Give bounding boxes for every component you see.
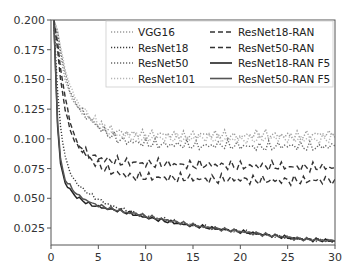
legend-label: VGG16 bbox=[138, 26, 175, 38]
y-tick-label: 0.025 bbox=[14, 222, 46, 235]
x-tick-label: 0 bbox=[48, 251, 55, 264]
y-tick-label: 0.125 bbox=[14, 103, 46, 116]
y-tick-label: 0.200 bbox=[14, 14, 46, 27]
y-tick-label: 0.175 bbox=[14, 44, 46, 57]
x-tick-label: 5 bbox=[95, 251, 102, 264]
legend-label: ResNet50-RAN F5 bbox=[238, 73, 330, 85]
legend: VGG16ResNet18ResNet50ResNet101 ResNet18-… bbox=[106, 21, 333, 87]
legend-label: ResNet18-RAN bbox=[238, 26, 314, 38]
loss-line-chart: 0.0250.0500.0750.1000.1250.1500.1750.200… bbox=[0, 0, 356, 273]
legend-label: ResNet18 bbox=[138, 42, 189, 54]
x-tick-label: 15 bbox=[186, 251, 200, 264]
x-tick-label: 20 bbox=[233, 251, 247, 264]
y-axis: 0.0250.0500.0750.1000.1250.1500.1750.200 bbox=[14, 14, 52, 235]
y-tick-label: 0.075 bbox=[14, 163, 46, 176]
legend-label: ResNet18-RAN F5 bbox=[238, 57, 330, 69]
y-tick-label: 0.150 bbox=[14, 73, 46, 86]
y-tick-label: 0.100 bbox=[14, 133, 46, 146]
legend-label: ResNet101 bbox=[138, 73, 195, 85]
x-axis: 051015202530 bbox=[48, 245, 343, 264]
legend-label: ResNet50-RAN bbox=[238, 42, 314, 54]
x-tick-label: 30 bbox=[328, 251, 342, 264]
y-tick-label: 0.050 bbox=[14, 192, 46, 205]
x-tick-label: 10 bbox=[139, 251, 153, 264]
legend-label: ResNet50 bbox=[138, 57, 189, 69]
x-tick-label: 25 bbox=[281, 251, 295, 264]
